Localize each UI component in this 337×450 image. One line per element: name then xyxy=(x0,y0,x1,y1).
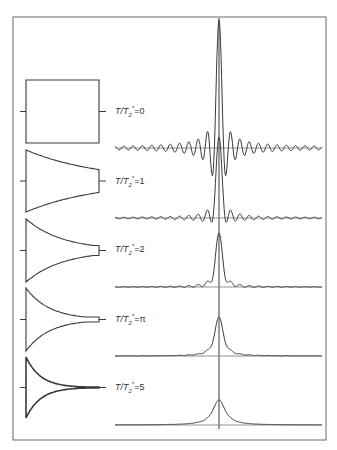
panel-label: T/T2*=0 xyxy=(115,106,144,116)
panels-group xyxy=(20,20,322,425)
panel-1 xyxy=(20,20,322,176)
panel-label: T/T2*=2 xyxy=(115,244,144,254)
pulse-envelope xyxy=(26,288,99,351)
figure-canvas xyxy=(0,0,337,450)
panel-5 xyxy=(20,357,322,425)
panel-label: T/T2*=1 xyxy=(115,176,144,186)
panel-label: T/T2*=5 xyxy=(115,382,144,392)
pulse-envelope xyxy=(26,357,99,418)
panel-label: T/T2*=π xyxy=(115,314,146,324)
panel-2 xyxy=(20,137,322,222)
panel-4 xyxy=(20,288,322,356)
pulse-envelope xyxy=(26,80,99,143)
pulse-envelope xyxy=(26,150,99,212)
pulse-envelope xyxy=(26,219,99,282)
panel-3 xyxy=(20,219,322,287)
